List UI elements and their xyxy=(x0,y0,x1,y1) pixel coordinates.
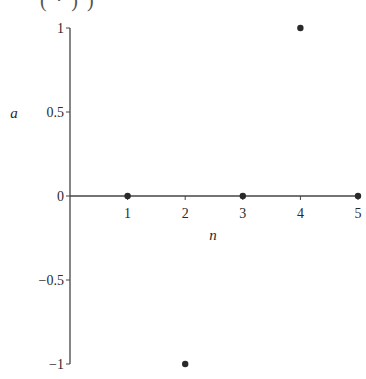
y-tick-label: −0.5 xyxy=(39,273,64,288)
data-point xyxy=(182,361,188,367)
x-tick-label: 2 xyxy=(182,206,189,221)
data-point xyxy=(124,193,130,199)
x-tick-label: 3 xyxy=(239,206,246,221)
y-tick-label: 0.5 xyxy=(47,105,65,120)
y-tick-label: −1 xyxy=(49,357,64,372)
y-tick-label: 0 xyxy=(57,189,64,204)
x-tick-label: 4 xyxy=(297,206,304,221)
data-point xyxy=(240,193,246,199)
axis-labels: na xyxy=(10,105,217,243)
x-tick-label: 1 xyxy=(124,206,131,221)
x-tick-label: 5 xyxy=(355,206,362,221)
axes: 10.50−0.5−112345 xyxy=(39,21,362,372)
scatter-chart: 10.50−0.5−112345 na xyxy=(0,0,366,379)
y-tick-label: 1 xyxy=(57,21,64,36)
data-point xyxy=(355,193,361,199)
data-point xyxy=(297,25,303,31)
y-axis-label: a xyxy=(10,105,18,121)
x-axis-label: n xyxy=(209,227,217,243)
